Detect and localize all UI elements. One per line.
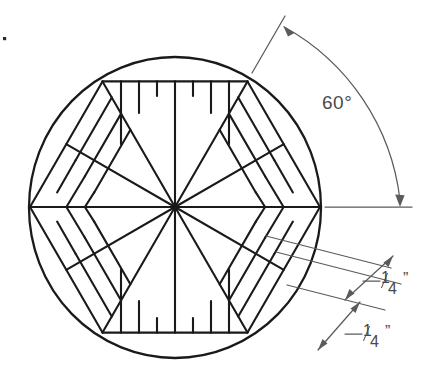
step-line: [274, 222, 293, 254]
spoke-mid-330deg: [175, 207, 284, 270]
spacing-extension-line-b: [266, 236, 391, 268]
spoke-mid-150deg: [66, 144, 175, 207]
radial-spokes-group: [30, 81, 320, 332]
spoke-mid-210deg: [66, 207, 175, 270]
spacing-dimension-label-upper: 1 4 ”: [381, 272, 408, 296]
drawing-vector-layer: [0, 0, 424, 392]
spacing-arrowhead-upper-bottom: [345, 289, 355, 300]
spoke-mid-30deg: [175, 144, 284, 207]
step-line: [76, 98, 112, 161]
angle-extension-line-upper: [252, 16, 285, 73]
step-line: [220, 222, 256, 285]
step-line: [265, 207, 284, 238]
step-line: [229, 238, 265, 301]
step-line: [85, 114, 121, 177]
step-line: [66, 176, 85, 207]
step-line: [229, 114, 265, 177]
step-line: [94, 130, 130, 193]
step-line: [256, 192, 265, 207]
spacing-arrowhead-upper-top: [384, 256, 394, 267]
angle-dimension-label: 60°: [322, 92, 352, 114]
step-line: [265, 176, 284, 207]
fraction-upper: 1 4: [381, 272, 403, 296]
scan-speck-artifact: [3, 37, 6, 40]
step-line: [85, 238, 121, 301]
step-line: [85, 207, 94, 222]
inch-mark-upper: ”: [403, 270, 408, 287]
step-line: [238, 254, 274, 317]
step-line: [238, 98, 274, 161]
spacing-extension-line-c: [287, 285, 385, 310]
fraction-denominator: 4: [370, 333, 379, 351]
step-line: [57, 160, 76, 192]
step-line: [85, 192, 94, 207]
step-line: [220, 130, 256, 193]
angle-arrowhead-lower: [395, 195, 404, 208]
step-line: [57, 222, 76, 254]
step-line: [256, 207, 265, 222]
fraction-lower: 1 4: [363, 325, 385, 349]
step-line: [274, 160, 293, 192]
step-line: [94, 222, 130, 285]
step-line: [76, 254, 112, 317]
inch-mark-lower: ”: [385, 323, 390, 340]
fraction-denominator: 4: [388, 280, 397, 298]
technical-drawing-canvas: 60° 1 4 ” 1 4 ”: [0, 0, 424, 392]
spacing-dimension-label-lower: 1 4 ”: [363, 325, 390, 349]
step-line: [66, 207, 85, 238]
